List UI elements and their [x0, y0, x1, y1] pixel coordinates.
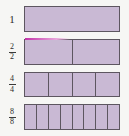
fraction-bar-4 — [24, 72, 120, 97]
fraction-cell — [25, 7, 119, 31]
row-label-eight-eighths: 8 8 — [0, 108, 24, 127]
fraction-bar-1 — [24, 6, 120, 32]
fraction-bar-2 — [24, 39, 120, 65]
fraction-cell — [84, 105, 96, 129]
fraction-cell — [49, 73, 73, 96]
fraction-cell — [49, 105, 61, 129]
fraction-denominator: 2 — [10, 53, 14, 61]
fraction-cell — [108, 105, 119, 129]
fraction-row: 8 8 — [0, 104, 129, 130]
fraction-row: 4 4 — [0, 72, 129, 97]
fraction-numerator: 4 — [10, 75, 14, 83]
fraction-cell — [96, 105, 108, 129]
fraction-numerator: 8 — [10, 108, 14, 116]
fraction-numerator: 2 — [10, 43, 14, 51]
fraction-row: 2 2 — [0, 39, 129, 65]
fraction-denominator: 4 — [10, 86, 14, 94]
fraction-cell — [37, 105, 49, 129]
row-label-whole: 1 — [0, 14, 24, 25]
fraction-cell — [96, 73, 119, 96]
fraction-cell — [73, 73, 97, 96]
fraction-cell — [61, 105, 73, 129]
whole-number-label: 1 — [9, 14, 15, 25]
fraction-cell — [25, 105, 37, 129]
fraction-cell — [25, 73, 49, 96]
fraction-label: 8 8 — [9, 108, 16, 127]
row-label-four-fourths: 4 4 — [0, 75, 24, 94]
fraction-label: 4 4 — [9, 75, 16, 94]
fraction-row: 1 — [0, 6, 129, 32]
fraction-cell — [25, 40, 73, 64]
fraction-denominator: 8 — [10, 118, 14, 126]
row-label-two-halves: 2 2 — [0, 43, 24, 62]
fraction-bar-diagram: 1 2 2 4 4 — [0, 0, 129, 136]
fraction-cell — [73, 40, 120, 64]
fraction-label: 2 2 — [9, 43, 16, 62]
fraction-cell — [73, 105, 85, 129]
fraction-bar-8 — [24, 104, 120, 130]
